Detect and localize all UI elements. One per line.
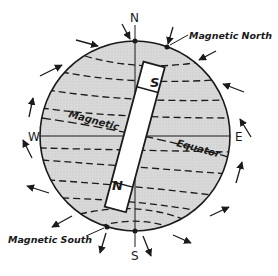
field-arrow-icon bbox=[122, 24, 130, 39]
north-label: N bbox=[130, 11, 139, 25]
magnetic-north-label: Magnetic North bbox=[189, 30, 272, 41]
magnet-bottom-pole-label: N bbox=[112, 178, 123, 193]
field-arrow-icon bbox=[236, 162, 242, 183]
magnetic-south-leader bbox=[86, 228, 104, 236]
field-arrow-icon bbox=[100, 233, 106, 253]
field-arrow-icon bbox=[168, 27, 173, 44]
south-label: S bbox=[131, 249, 139, 263]
field-arrow-icon bbox=[29, 98, 33, 117]
earth-magnet-diagram: S N N S W E Magnetic North Magnetic Sout… bbox=[0, 0, 278, 276]
magnetic-south-dot bbox=[105, 225, 110, 230]
field-arrow-icon bbox=[76, 40, 98, 46]
magnetic-north-leader bbox=[170, 35, 188, 45]
field-arrow-icon bbox=[199, 51, 216, 60]
field-arrow-icon bbox=[27, 186, 49, 193]
field-arrow-icon bbox=[40, 65, 62, 76]
field-arrow-icon bbox=[52, 216, 72, 227]
field-arrow-icon bbox=[223, 84, 244, 92]
globe: S N bbox=[40, 20, 232, 255]
field-arrow-icon bbox=[210, 207, 229, 216]
east-label: E bbox=[235, 130, 243, 144]
west-label: W bbox=[28, 130, 40, 144]
field-arrow-icon bbox=[143, 236, 151, 256]
magnetic-south-label: Magnetic South bbox=[8, 234, 92, 245]
field-arrow-icon bbox=[173, 235, 191, 243]
magnetic-north-dot bbox=[165, 45, 170, 50]
magnet-top-pole-label: S bbox=[150, 75, 159, 90]
